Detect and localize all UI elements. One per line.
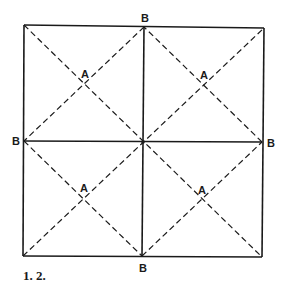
label-b-right: B <box>267 137 275 149</box>
diamond-edge-bottom-left <box>24 141 142 256</box>
label-b-bottom: B <box>139 262 147 274</box>
label-a-top-right: A <box>200 69 208 81</box>
label-a-bottom-left: A <box>80 182 88 194</box>
label-a-top-left: A <box>81 68 89 80</box>
label-b-left: B <box>12 135 20 147</box>
crease-pattern-diagram: B B B B A A A A <box>0 0 281 293</box>
center-point <box>141 140 145 144</box>
label-b-top: B <box>141 12 149 24</box>
label-a-bottom-right: A <box>198 184 206 196</box>
diamond-edge-top-left <box>24 27 144 141</box>
step-caption: 1. 2. <box>23 268 46 284</box>
